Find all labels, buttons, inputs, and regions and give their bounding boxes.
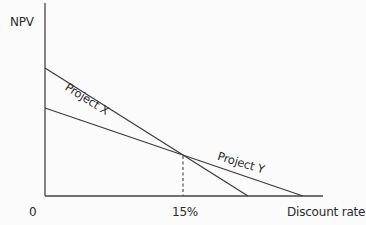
- project-y-line: [45, 108, 303, 196]
- y-axis-label: NPV: [10, 15, 34, 29]
- npv-profile-chart: [0, 0, 366, 225]
- x-axis-label: Discount rate: [287, 205, 365, 219]
- origin-label: 0: [29, 205, 36, 219]
- crossover-rate-label: 15%: [172, 205, 198, 219]
